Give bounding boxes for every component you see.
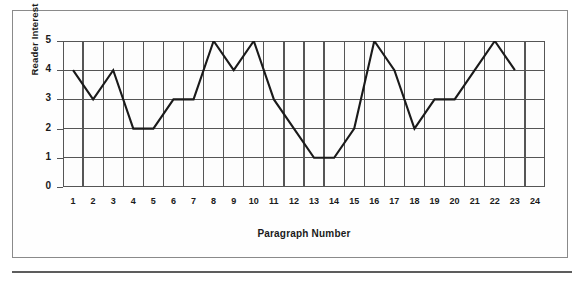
y-tick-mark <box>57 99 63 100</box>
y-tick-label: 1 <box>33 151 51 162</box>
y-tick-mark <box>57 129 63 130</box>
plot-area <box>63 41 545 187</box>
x-tick-label: 24 <box>523 196 547 206</box>
y-tick-label: 5 <box>33 34 51 45</box>
x-axis-title: Paragraph Number <box>63 228 545 239</box>
y-tick-mark <box>57 41 63 42</box>
y-tick-label: 4 <box>33 63 51 74</box>
figure-container: Reader Interest 012345 12345678910111213… <box>0 0 584 281</box>
y-tick-mark <box>57 158 63 159</box>
chart-plot-svg <box>63 41 545 187</box>
y-tick-mark <box>57 70 63 71</box>
y-tick-label: 2 <box>33 122 51 133</box>
y-tick-label: 0 <box>33 180 51 191</box>
bottom-divider-rule <box>12 271 572 273</box>
y-tick-label: 3 <box>33 92 51 103</box>
y-tick-mark <box>57 187 63 188</box>
y-axis-title: Reader Interest <box>29 0 40 100</box>
